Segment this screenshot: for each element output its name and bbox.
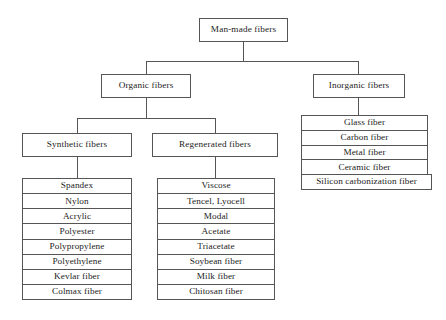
- connector-level2-bus: [146, 61, 359, 62]
- list-item: Modal: [158, 209, 274, 224]
- list-item: Polypropylene: [23, 240, 131, 255]
- list-item: Colmax fiber: [23, 285, 131, 299]
- connector-inorganic-stem: [358, 98, 359, 115]
- list-item: Acrylic: [23, 209, 131, 224]
- list-item: Acetate: [158, 224, 274, 239]
- list-synthetic-fibers: Spandex Nylon Acrylic Polyester Polyprop…: [22, 178, 132, 300]
- list-regenerated-fibers: Viscose Tencel, Lyocell Modal Acetate Tr…: [157, 178, 275, 300]
- node-regenerated-fibers: Regenerated fibers: [152, 133, 278, 157]
- connector-to-organic: [146, 61, 147, 74]
- list-item: Nylon: [23, 194, 131, 209]
- list-item: Milk fiber: [158, 270, 274, 285]
- list-item: Viscose: [158, 179, 274, 194]
- list-item: Glass fiber: [301, 115, 428, 130]
- connector-level3-bus: [77, 118, 216, 119]
- connector-to-synthetic: [77, 118, 78, 133]
- connector-organic-stem: [146, 98, 147, 118]
- node-inorganic-fibers: Inorganic fibers: [313, 74, 405, 98]
- list-item: Spandex: [23, 179, 131, 194]
- connector-to-regenerated: [215, 118, 216, 133]
- list-item: Triacetate: [158, 240, 274, 255]
- list-item: Carbon fiber: [301, 130, 428, 145]
- list-item: Metal fiber: [301, 145, 428, 160]
- list-item: Polyethylene: [23, 255, 131, 270]
- connector-synthetic-stem: [77, 157, 78, 178]
- fiber-classification-diagram: Man-made fibers Organic fibers Inorganic…: [0, 0, 446, 320]
- node-label-inorganic: Inorganic fibers: [329, 81, 390, 90]
- connector-regenerated-stem: [215, 157, 216, 178]
- list-item: Silicon carbonization fiber: [301, 174, 432, 190]
- node-organic-fibers: Organic fibers: [101, 74, 191, 98]
- list-item: Chitosan fiber: [158, 285, 274, 299]
- node-label-regenerated: Regenerated fibers: [179, 140, 251, 149]
- list-item: Tencel, Lyocell: [158, 194, 274, 209]
- list-item: Soybean fiber: [158, 255, 274, 270]
- node-label-root: Man-made fibers: [211, 25, 276, 34]
- list-item: Ceramic fiber: [301, 159, 428, 174]
- list-inorganic-fibers: Glass fiber Carbon fiber Metal fiber Cer…: [301, 115, 432, 190]
- connector-root-stem: [243, 42, 244, 61]
- node-label-organic: Organic fibers: [119, 81, 174, 90]
- node-man-made-fibers: Man-made fibers: [199, 18, 288, 42]
- connector-to-inorganic: [358, 61, 359, 74]
- list-item: Polyester: [23, 224, 131, 239]
- node-label-synthetic: Synthetic fibers: [47, 140, 107, 149]
- list-item: Kevlar fiber: [23, 270, 131, 285]
- node-synthetic-fibers: Synthetic fibers: [22, 133, 132, 157]
